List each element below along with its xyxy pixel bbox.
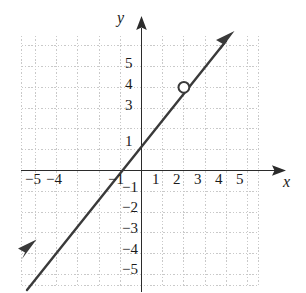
x-tick-label-5: 5 xyxy=(236,172,244,187)
line-arrowhead-lower-left xyxy=(18,240,37,260)
y-tick-label-5: 5 xyxy=(125,56,133,71)
x-tick-label-1: 1 xyxy=(152,172,160,187)
y-tick-label-neg5: −5 xyxy=(122,262,138,277)
y-tick-label-neg3: −3 xyxy=(122,221,138,236)
y-axis-label: y xyxy=(117,10,124,26)
y-tick-label-1: 1 xyxy=(125,134,133,149)
x-tick-label-3: 3 xyxy=(194,172,202,187)
grid-lines xyxy=(22,36,259,285)
y-tick-label-neg4: −4 xyxy=(122,242,138,257)
x-tick-label-4: 4 xyxy=(215,172,223,187)
y-tick-label-3: 3 xyxy=(125,98,133,113)
y-tick-label-4: 4 xyxy=(125,77,133,92)
open-circle-point xyxy=(179,82,190,93)
x-tick-label-neg4: −4 xyxy=(46,172,62,187)
y-tick-label-neg2: −2 xyxy=(122,200,138,215)
x-axis-label: x xyxy=(283,174,290,190)
line-arrowhead-upper-right xyxy=(216,31,235,51)
x-tick-label-neg5: −5 xyxy=(25,172,41,187)
graph-canvas xyxy=(0,0,306,293)
y-axis-arrowhead xyxy=(136,16,147,30)
y-tick-label-neg1: −1 xyxy=(122,180,138,195)
x-tick-label-2: 2 xyxy=(173,172,181,187)
coordinate-plane-figure: −5 −4 −1 1 2 3 4 5 5 4 3 1 −1 −2 −3 −4 −… xyxy=(0,0,306,293)
